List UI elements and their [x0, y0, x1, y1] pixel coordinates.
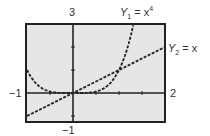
legend-y2: Y2 = x [168, 43, 197, 56]
y-max-label: 3 [69, 7, 75, 18]
legend-y1: Y1 = x4 [120, 5, 153, 20]
y-min-label: −1 [62, 125, 75, 136]
graph-canvas [0, 0, 210, 136]
calculator-screen [26, 24, 165, 122]
x-min-label: −1 [9, 88, 22, 99]
x-max-label: 2 [170, 88, 176, 99]
